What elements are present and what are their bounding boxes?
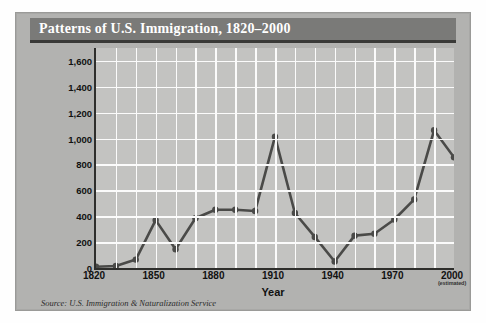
x-axis-title: Year	[94, 286, 452, 298]
y-axis-tick-label: 200	[46, 237, 92, 248]
source-note: Source: U.S. Immigration & Naturalizatio…	[41, 298, 216, 308]
gridline-vertical	[374, 48, 376, 268]
x-axis-tick-label: 1940	[322, 270, 344, 281]
gridline-vertical	[156, 48, 158, 268]
gridline-vertical	[255, 48, 257, 268]
gridline-vertical	[235, 48, 237, 268]
chart-area: Number of Immigrants (in thousands) 0200…	[30, 44, 456, 292]
gridline-vertical	[434, 48, 436, 268]
gridline-vertical	[414, 48, 416, 268]
y-axis-tick-label: 600	[46, 185, 92, 196]
y-axis-tick-label: 1,000	[46, 133, 92, 144]
gridline-vertical	[394, 48, 396, 268]
gridline-vertical	[295, 48, 297, 268]
y-axis-tick-label: 1,400	[46, 81, 92, 92]
x-axis-tick-label: 2000(estimated)	[438, 270, 466, 286]
y-axis-tick-labels: 02004006008001,0001,2001,4001,600	[46, 44, 92, 268]
x-axis-tick-label: 1910	[262, 270, 284, 281]
data-point-marker	[94, 264, 99, 270]
x-axis-tick-label: 1850	[143, 270, 165, 281]
y-axis-tick-label: 800	[46, 159, 92, 170]
gridline-vertical	[315, 48, 317, 268]
figure-root: Patterns of U.S. Immigration, 1820–2000 …	[0, 0, 486, 323]
x-axis-tick-label: 1820	[83, 270, 105, 281]
gridline-vertical	[335, 48, 337, 268]
plot-area	[94, 48, 454, 270]
gridline-vertical	[176, 48, 178, 268]
gridline-vertical	[195, 48, 197, 268]
x-axis-tick-label: 1970	[381, 270, 403, 281]
y-axis-tick-label: 1,200	[46, 107, 92, 118]
y-axis-tick-label: 400	[46, 211, 92, 222]
figure-card: Patterns of U.S. Immigration, 1820–2000 …	[16, 13, 470, 310]
y-axis-tick-label: 1,600	[46, 55, 92, 66]
gridline-vertical	[275, 48, 277, 268]
gridline-vertical	[116, 48, 118, 268]
gridline-vertical	[355, 48, 357, 268]
x-axis-tick-label: 1880	[202, 270, 224, 281]
page-title: Patterns of U.S. Immigration, 1820–2000	[39, 21, 291, 37]
gridline-vertical	[136, 48, 138, 268]
title-bar: Patterns of U.S. Immigration, 1820–2000	[30, 18, 456, 43]
gridline-vertical	[215, 48, 217, 268]
